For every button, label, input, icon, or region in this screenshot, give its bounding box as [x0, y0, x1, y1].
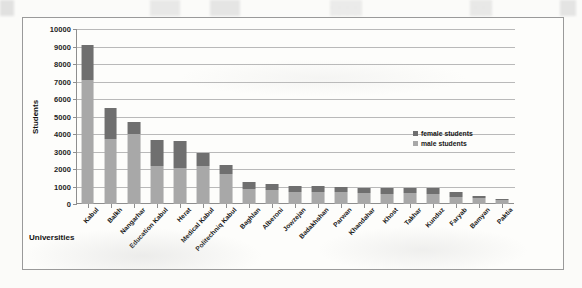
x-axis-tick-label: Baghlan	[238, 206, 261, 230]
bar-segment-female-students[interactable]	[173, 141, 186, 168]
bar-slot[interactable]	[237, 29, 260, 204]
bar-slot[interactable]	[214, 29, 237, 204]
y-axis-title: Students	[31, 100, 40, 134]
x-axis-tick-label: Herat	[175, 206, 192, 223]
stacked-bar[interactable]	[150, 140, 163, 204]
y-axis-tick-label: 2000	[54, 165, 71, 174]
bar-segment-male-students[interactable]	[219, 174, 232, 204]
bar-segment-male-students[interactable]	[335, 192, 348, 204]
bar-segment-male-students[interactable]	[242, 189, 255, 204]
y-axis-tick-label: 1000	[54, 182, 71, 191]
bar-segment-male-students[interactable]	[150, 166, 163, 205]
bar-segment-male-students[interactable]	[381, 194, 394, 205]
stacked-bar[interactable]	[81, 45, 94, 204]
stacked-bar[interactable]	[335, 187, 348, 205]
x-axis-tick-label: Kabul	[81, 206, 99, 224]
bar-segment-male-students[interactable]	[196, 166, 209, 205]
bar-segment-female-students[interactable]	[150, 140, 163, 165]
y-axis-tick-label: 4000	[54, 130, 71, 139]
y-axis-tick-label: 10000	[50, 25, 71, 34]
y-axis-tick-label: 3000	[54, 147, 71, 156]
bar-slot[interactable]	[330, 29, 353, 204]
bar-slot[interactable]	[122, 29, 145, 204]
x-axis-title: Universities	[29, 233, 74, 242]
bar-segment-female-students[interactable]	[127, 122, 140, 134]
bar-slot[interactable]	[260, 29, 283, 204]
stacked-bar[interactable]	[127, 122, 140, 204]
legend-swatch-icon	[413, 141, 418, 146]
bar-segment-female-students[interactable]	[242, 182, 255, 189]
x-axis-tick-label: Khost	[381, 206, 399, 225]
bar-segment-male-students[interactable]	[173, 168, 186, 204]
y-axis-tick-label: 0	[67, 200, 71, 209]
legend-swatch-icon	[413, 131, 418, 136]
y-axis-tick	[73, 204, 77, 205]
legend-item[interactable]: female students	[413, 130, 473, 137]
bar-segment-male-students[interactable]	[104, 139, 117, 204]
chart-legend: female studentsmale students	[413, 130, 473, 150]
y-axis-tick-label: 8000	[54, 60, 71, 69]
bar-slot[interactable]	[307, 29, 330, 204]
bar-segment-male-students[interactable]	[265, 190, 278, 204]
bar-segment-male-students[interactable]	[450, 197, 463, 204]
x-axis-tick-label: Kunduz	[424, 206, 446, 229]
x-axis-tick-label: Parwan	[332, 206, 353, 228]
stacked-bar[interactable]	[427, 188, 440, 204]
y-axis-tick-label: 9000	[54, 42, 71, 51]
stacked-bar[interactable]	[173, 141, 186, 204]
stacked-bar[interactable]	[219, 165, 232, 204]
legend-item[interactable]: male students	[413, 140, 473, 147]
x-axis-tick-label: Balkh	[105, 206, 123, 224]
x-axis-tick-label: Politechniq Kabul	[194, 206, 238, 252]
x-axis-labels: KabulBalkhNangarharEducation KabulHeratM…	[76, 206, 514, 268]
bar-slot[interactable]	[491, 29, 514, 204]
bar-slot[interactable]	[76, 29, 99, 204]
x-axis-tick-label: Takhar	[403, 206, 423, 226]
bar-segment-male-students[interactable]	[427, 194, 440, 205]
stacked-bar[interactable]	[381, 188, 394, 204]
stacked-bar[interactable]	[358, 188, 371, 204]
stacked-bar[interactable]	[104, 108, 117, 204]
bar-segment-male-students[interactable]	[81, 80, 94, 204]
x-axis-tick-label: Bamyan	[469, 206, 492, 230]
bar-slot[interactable]	[376, 29, 399, 204]
stacked-bar[interactable]	[196, 153, 209, 204]
bar-slot[interactable]	[283, 29, 306, 204]
bar-slot[interactable]	[422, 29, 445, 204]
bar-segment-female-students[interactable]	[104, 108, 117, 140]
bar-series-container	[76, 29, 514, 204]
stacked-bar[interactable]	[312, 186, 325, 204]
bar-slot[interactable]	[168, 29, 191, 204]
bar-segment-male-students[interactable]	[358, 193, 371, 204]
bar-segment-female-students[interactable]	[196, 153, 209, 165]
legend-item-label: female students	[421, 130, 473, 137]
stacked-bar[interactable]	[242, 182, 255, 204]
bar-slot[interactable]	[399, 29, 422, 204]
bar-slot[interactable]	[353, 29, 376, 204]
stacked-bar[interactable]	[265, 184, 278, 204]
bar-slot[interactable]	[445, 29, 468, 204]
y-axis-tick-label: 6000	[54, 95, 71, 104]
bar-segment-male-students[interactable]	[404, 193, 417, 204]
y-axis-tick-label: 7000	[54, 77, 71, 86]
bar-slot[interactable]	[468, 29, 491, 204]
bar-slot[interactable]	[99, 29, 122, 204]
bar-segment-female-students[interactable]	[219, 165, 232, 175]
stacked-bar[interactable]	[450, 192, 463, 204]
bar-slot[interactable]	[191, 29, 214, 204]
bar-segment-male-students[interactable]	[312, 192, 325, 204]
stacked-bar[interactable]	[289, 186, 302, 204]
bar-segment-female-students[interactable]	[81, 45, 94, 80]
bar-slot[interactable]	[145, 29, 168, 204]
chart-frame: Students Universities 100009000800070006…	[22, 17, 564, 270]
bar-segment-male-students[interactable]	[289, 192, 302, 204]
stacked-bar[interactable]	[473, 196, 486, 204]
legend-item-label: male students	[421, 140, 467, 147]
x-axis-tick-label: Faryab	[448, 206, 468, 227]
x-axis-tick-label: Paktia	[496, 206, 515, 225]
bar-segment-male-students[interactable]	[127, 134, 140, 204]
scan-artifact-top	[0, 0, 582, 16]
y-axis-tick-label: 5000	[54, 112, 71, 121]
stacked-bar[interactable]	[404, 188, 417, 204]
